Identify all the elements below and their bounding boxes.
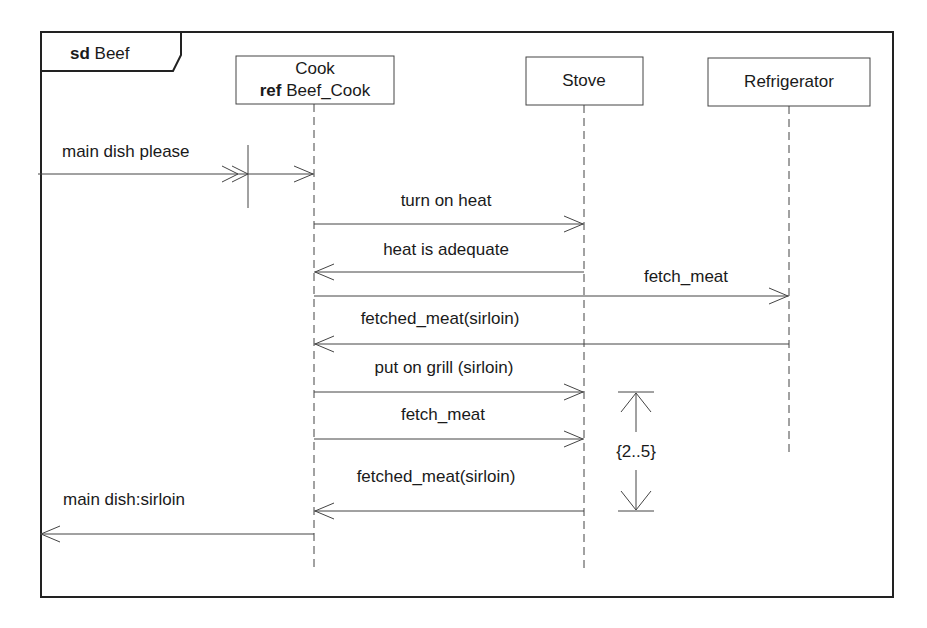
frame-keyword: sd (70, 44, 90, 63)
message-label: fetched_meat(sirloin) (357, 467, 516, 486)
message-turn-on-heat[interactable]: turn on heat (314, 191, 584, 232)
message-label: fetch_meat (401, 405, 485, 424)
frame-title: sd Beef (70, 44, 130, 63)
lifeline-name-cook: Cook (295, 59, 335, 78)
message-label: heat is adequate (383, 240, 509, 259)
message-label: fetched_meat(sirloin) (361, 309, 520, 328)
duration-constraint[interactable]: {2..5} (616, 392, 656, 511)
lifeline-name-stove: Stove (562, 71, 605, 90)
message-label: main dish:sirloin (63, 490, 185, 509)
message-main-dish-please[interactable]: main dish please (38, 142, 314, 208)
lifeline-refrigerator[interactable]: Refrigerator (708, 58, 870, 455)
message-fetched-meat-refrigerator[interactable]: fetched_meat(sirloin) (314, 309, 789, 352)
message-main-dish-sirloin[interactable]: main dish:sirloin (40, 490, 314, 542)
message-label: turn on heat (401, 191, 492, 210)
lifeline-name-refrigerator: Refrigerator (744, 72, 834, 91)
message-fetch-meat-stove[interactable]: fetch_meat (314, 405, 584, 447)
sequence-diagram: sd Beef Cook ref Beef_Cook Stove Refrige… (0, 0, 927, 628)
message-label: main dish please (62, 142, 190, 161)
message-label: fetch_meat (644, 267, 728, 286)
message-heat-is-adequate[interactable]: heat is adequate (314, 240, 584, 280)
ref-name: Beef_Cook (286, 81, 371, 100)
message-fetch-meat-refrigerator[interactable]: fetch_meat (314, 267, 789, 304)
message-label: put on grill (sirloin) (375, 358, 514, 377)
lifeline-stove[interactable]: Stove (526, 57, 643, 572)
message-fetched-meat-stove[interactable]: fetched_meat(sirloin) (314, 467, 584, 519)
lifeline-ref-cook: ref Beef_Cook (260, 81, 371, 100)
message-put-on-grill[interactable]: put on grill (sirloin) (314, 358, 584, 400)
constraint-label: {2..5} (616, 442, 656, 461)
frame-name: Beef (95, 44, 130, 63)
ref-keyword: ref (260, 81, 282, 100)
